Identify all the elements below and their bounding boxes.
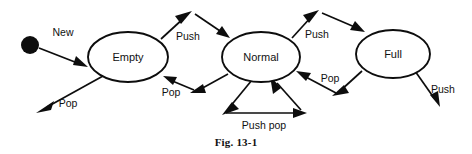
transition-empty-pop-exit: Pop [36,76,103,113]
state-normal-label: Normal [243,51,278,63]
transition-empty-pop-exit-arrowhead [36,101,54,113]
transition-normal-push-arrowhead [350,21,365,32]
transition-empty-pop-exit-label: Pop [59,97,78,109]
transition-full-pop-arrowhead [296,71,311,81]
transition-full-pop: Pop [296,71,362,96]
transition-normal-self-label: Push pop [242,119,287,131]
transition-empty-push: Push [161,11,230,42]
state-empty[interactable]: Empty [88,32,168,82]
figure-caption: Fig. 13-1 [215,136,258,148]
transition-new-arrowhead [73,56,88,67]
transition-normal-push-label: Push [305,28,329,40]
transition-new-line [39,48,80,64]
transition-normal-pop-label: Pop [162,86,181,98]
transition-new-label: New [52,26,73,38]
state-diagram-figure: New Push Pop Push [0,0,472,154]
transition-normal-self-push-pop: Push pop [222,76,307,131]
transition-normal-push: Push [292,10,365,40]
transition-new: New [39,26,88,67]
transition-full-pop-label: Pop [321,72,340,84]
state-diagram-canvas: New Push Pop Push [0,0,472,154]
initial-state-dot [21,36,39,54]
transition-normal-push-line-down [322,13,357,28]
transition-empty-push-arrowhead [216,26,230,38]
state-empty-label: Empty [112,51,144,63]
transition-normal-pop: Pop [162,74,228,98]
state-normal[interactable]: Normal [222,32,300,82]
transition-full-push-exit-label: Push [431,83,455,95]
transition-full-push-exit: Push [415,71,455,107]
state-full-label: Full [384,48,402,60]
transition-empty-push-arrowhead-mid [175,11,192,24]
transition-normal-self-line-right [277,83,301,110]
transition-empty-push-label: Push [176,30,200,42]
transition-normal-pop-arrowhead [163,76,177,85]
transition-normal-push-arrowhead-mid [303,10,319,23]
transition-full-pop-arrowhead-mid [332,85,349,96]
state-full[interactable]: Full [356,30,430,78]
